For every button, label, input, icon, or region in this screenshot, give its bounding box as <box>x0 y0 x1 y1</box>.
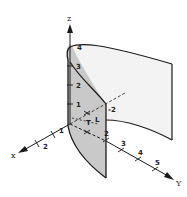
z-tick-label-4: 4 <box>77 44 82 52</box>
y-axis-label: Y <box>175 179 182 188</box>
z-tick-label-1: 1 <box>76 101 81 109</box>
x-axis-arrow-icon <box>18 146 28 153</box>
l-mark-label: L <box>95 116 100 124</box>
z-tick-label-2: 2 <box>76 82 81 90</box>
x-axis-label: x <box>11 151 16 160</box>
y-tick-label-2: 2 <box>104 130 109 138</box>
x-tick-label-1: 1 <box>59 127 64 135</box>
x-tick-label-2: 2 <box>43 143 48 151</box>
z-tick-label-3: 3 <box>76 63 81 71</box>
y-tick-label-3: 3 <box>121 140 126 148</box>
neg-two-label: -2 <box>108 106 116 114</box>
y-tick-label-4: 4 <box>138 149 143 157</box>
z-axis-arrow-icon <box>67 24 73 33</box>
y-tick-label-5: 5 <box>155 159 160 167</box>
z-axis-label: z <box>67 14 71 23</box>
parabolic-cylinder-diagram: z x Y 1 2 3 4 1 2 2 3 4 5 -2 T L <box>0 0 187 197</box>
y-axis-arrow-icon <box>164 172 174 180</box>
origin-mark-label: T <box>86 119 91 127</box>
